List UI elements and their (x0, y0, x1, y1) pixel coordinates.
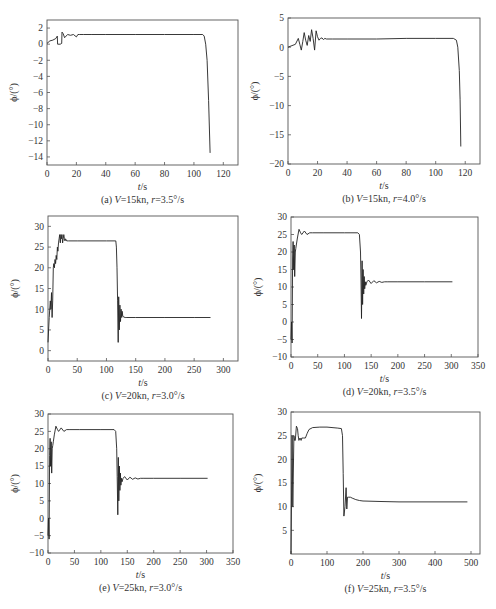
subplot-caption: (d) V=20kn, r=3.5°/s (343, 386, 427, 398)
y-tick-label: −5 (34, 531, 44, 541)
y-tick-label: 5 (39, 325, 44, 335)
y-tick-label: −5 (274, 72, 284, 82)
x-tick-label: 500 (464, 558, 479, 568)
y-tick-label: −12 (28, 136, 43, 146)
y-axis-label: ϕ/(°) (9, 474, 21, 493)
y-tick-label: 20 (35, 444, 45, 454)
subplot-b: 02040608010012050−5−10−15−20t/sϕ/(°)(b) … (249, 13, 480, 205)
y-tick-label: 20 (35, 263, 45, 273)
x-tick-label: 40 (101, 169, 111, 179)
y-tick-label: −10 (29, 548, 44, 558)
x-tick-label: 300 (392, 558, 407, 568)
y-tick-label: −2 (33, 56, 43, 66)
x-tick-label: 80 (401, 168, 411, 178)
y-tick-label: 2 (38, 23, 43, 33)
x-axis-label: t/s (138, 377, 148, 388)
subplot-caption: (c) V=20kn, r=3.0°/s (101, 390, 184, 402)
y-tick-label: 30 (278, 212, 288, 222)
y-tick-label: 20 (278, 455, 288, 465)
subplot-f: 010020030040050030252015105t/sϕ/(°)(f) V… (252, 407, 480, 595)
y-axis-label: ϕ/(°) (8, 83, 20, 102)
roll-angle-curve (47, 32, 210, 153)
x-axis-label: t/s (138, 181, 148, 192)
y-tick-label: 10 (35, 305, 45, 315)
y-tick-label: 15 (278, 265, 288, 275)
x-tick-label: 350 (471, 361, 486, 371)
x-tick-label: 200 (147, 557, 162, 567)
plot-frame (291, 412, 480, 554)
subplot-e: 050100150200250300350302520151050−5−10t/… (9, 409, 240, 594)
x-tick-label: 150 (364, 361, 379, 371)
y-tick-label: 20 (278, 247, 288, 257)
y-tick-label: 30 (35, 409, 45, 419)
x-axis-label: t/s (381, 570, 391, 581)
y-tick-label: 10 (35, 479, 45, 489)
y-tick-label: 5 (279, 13, 284, 23)
y-tick-label: −6 (33, 88, 43, 98)
x-tick-label: 50 (70, 557, 80, 567)
y-tick-label: 30 (35, 222, 45, 232)
x-axis-label: t/s (379, 180, 389, 191)
y-tick-label: −4 (33, 72, 43, 82)
x-tick-label: 100 (337, 361, 352, 371)
x-tick-label: 350 (226, 557, 241, 567)
y-tick-label: 10 (278, 502, 288, 512)
roll-angle-curve (288, 30, 461, 147)
y-tick-label: 25 (278, 431, 288, 441)
subplot-a: 02040608010012020−2−4−6−8−10−12−14t/sϕ/(… (8, 20, 238, 206)
x-tick-label: 20 (72, 169, 82, 179)
x-tick-label: 250 (173, 557, 188, 567)
y-tick-label: 5 (282, 300, 287, 310)
y-tick-label: −10 (272, 352, 287, 362)
x-tick-label: 200 (158, 365, 173, 375)
x-tick-label: 250 (187, 365, 202, 375)
y-tick-label: 10 (278, 282, 288, 292)
x-axis-label: t/s (380, 373, 390, 384)
figure-canvas: 02040608010012020−2−4−6−8−10−12−14t/sϕ/(… (0, 0, 496, 609)
y-tick-label: −20 (269, 159, 284, 169)
subplot-caption: (e) V=25kn, r=3.0°/s (99, 582, 182, 594)
y-tick-label: 0 (282, 317, 287, 327)
y-tick-label: 0 (279, 43, 284, 53)
x-tick-label: 250 (417, 361, 432, 371)
y-tick-label: 15 (35, 284, 45, 294)
x-tick-label: 200 (356, 558, 371, 568)
x-tick-label: 120 (458, 168, 473, 178)
y-tick-label: 0 (39, 514, 44, 524)
x-tick-label: 0 (45, 169, 50, 179)
x-tick-label: 200 (391, 361, 406, 371)
subplot-d: 050100150200250300350302520151050−5−10t/… (252, 212, 485, 398)
x-tick-label: 100 (187, 169, 202, 179)
x-tick-label: 0 (289, 361, 294, 371)
y-tick-label: −10 (28, 120, 43, 130)
x-tick-label: 120 (216, 169, 231, 179)
plot-frame (47, 20, 238, 165)
y-tick-label: −15 (269, 130, 284, 140)
x-tick-label: 0 (46, 557, 51, 567)
subplot-caption: (b) V=15kn, r=4.0°/s (342, 193, 426, 205)
y-tick-label: 25 (35, 242, 45, 252)
roll-angle-curve (291, 229, 452, 343)
y-axis-label: ϕ/(°) (249, 82, 261, 101)
x-tick-label: 20 (313, 168, 323, 178)
x-tick-label: 300 (444, 361, 459, 371)
x-tick-label: 150 (129, 365, 144, 375)
x-tick-label: 400 (428, 558, 443, 568)
plot-frame (48, 216, 238, 361)
y-tick-label: −5 (277, 335, 287, 345)
y-tick-label: 0 (39, 346, 44, 356)
subplot-caption: (a) V=15kn, r=3.5°/s (101, 194, 184, 206)
y-tick-label: 15 (278, 478, 288, 488)
roll-angle-curve (48, 426, 208, 539)
x-tick-label: 0 (289, 558, 294, 568)
y-tick-label: 0 (38, 39, 43, 49)
y-tick-label: 5 (39, 496, 44, 506)
plot-frame (48, 414, 233, 553)
y-axis-label: ϕ/(°) (9, 279, 21, 298)
x-tick-label: 300 (216, 365, 231, 375)
x-tick-label: 0 (46, 365, 51, 375)
x-tick-label: 100 (429, 168, 444, 178)
x-tick-label: 40 (342, 168, 352, 178)
y-tick-label: 25 (35, 427, 45, 437)
x-tick-label: 60 (130, 169, 140, 179)
